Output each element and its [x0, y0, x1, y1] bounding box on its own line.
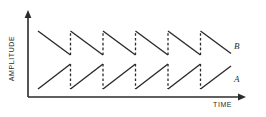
waveform-a-ramps	[38, 64, 231, 89]
waveform-b-ramps	[38, 31, 231, 55]
x-axis-arrow-icon	[238, 94, 246, 101]
waveform-a	[38, 64, 231, 89]
waveform-b-ramp	[168, 31, 201, 55]
y-axis	[25, 10, 32, 97]
waveform-a-ramp	[201, 66, 232, 89]
waveform-b-label: B	[234, 41, 240, 51]
x-axis	[28, 94, 246, 101]
waveform-b-transitions	[71, 31, 201, 55]
x-axis-label: TIME	[213, 101, 232, 108]
waveform-b	[38, 31, 231, 55]
waveform-b-ramp	[136, 31, 169, 55]
waveform-a-ramp	[136, 64, 169, 89]
waveform-b-ramp	[38, 31, 71, 55]
waveform-b-ramp	[201, 31, 232, 54]
waveform-a-transitions	[71, 64, 201, 89]
waveform-b-ramp	[71, 31, 104, 55]
waveform-svg	[0, 0, 266, 117]
waveform-a-ramp	[103, 64, 136, 89]
waveform-b-ramp	[103, 31, 136, 55]
waveform-diagram: AMPLITUDE TIME B A	[0, 0, 266, 117]
waveform-a-label: A	[234, 74, 240, 84]
y-axis-label: AMPLITUDE	[8, 27, 15, 91]
waveform-a-ramp	[168, 64, 201, 89]
waveform-a-ramp	[71, 64, 104, 89]
waveform-a-ramp	[38, 64, 71, 89]
y-axis-arrow-icon	[25, 10, 32, 18]
